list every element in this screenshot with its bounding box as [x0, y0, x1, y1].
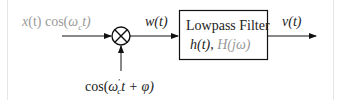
mixer-signal-label: cos(ω′ct + φ): [85, 78, 154, 96]
output-signal-label: v(t): [282, 15, 301, 29]
mixer-post: t + φ): [121, 79, 154, 94]
input-t1: (t) cos(: [28, 14, 68, 29]
frequency-response: H(jω): [217, 37, 250, 52]
filter-responses: h(t), H(jω): [190, 38, 250, 52]
mixer-pre: cos(: [85, 79, 108, 94]
input-omega: ω: [68, 14, 78, 29]
multiplier-icon: [112, 27, 130, 45]
intermediate-signal-label: w(t): [145, 15, 168, 29]
input-t2: t): [82, 14, 91, 29]
impulse-response: h(t),: [190, 37, 214, 52]
input-signal-label: x(t) cos(ωct): [22, 15, 91, 32]
filter-title: Lowpass Filter: [186, 19, 270, 33]
